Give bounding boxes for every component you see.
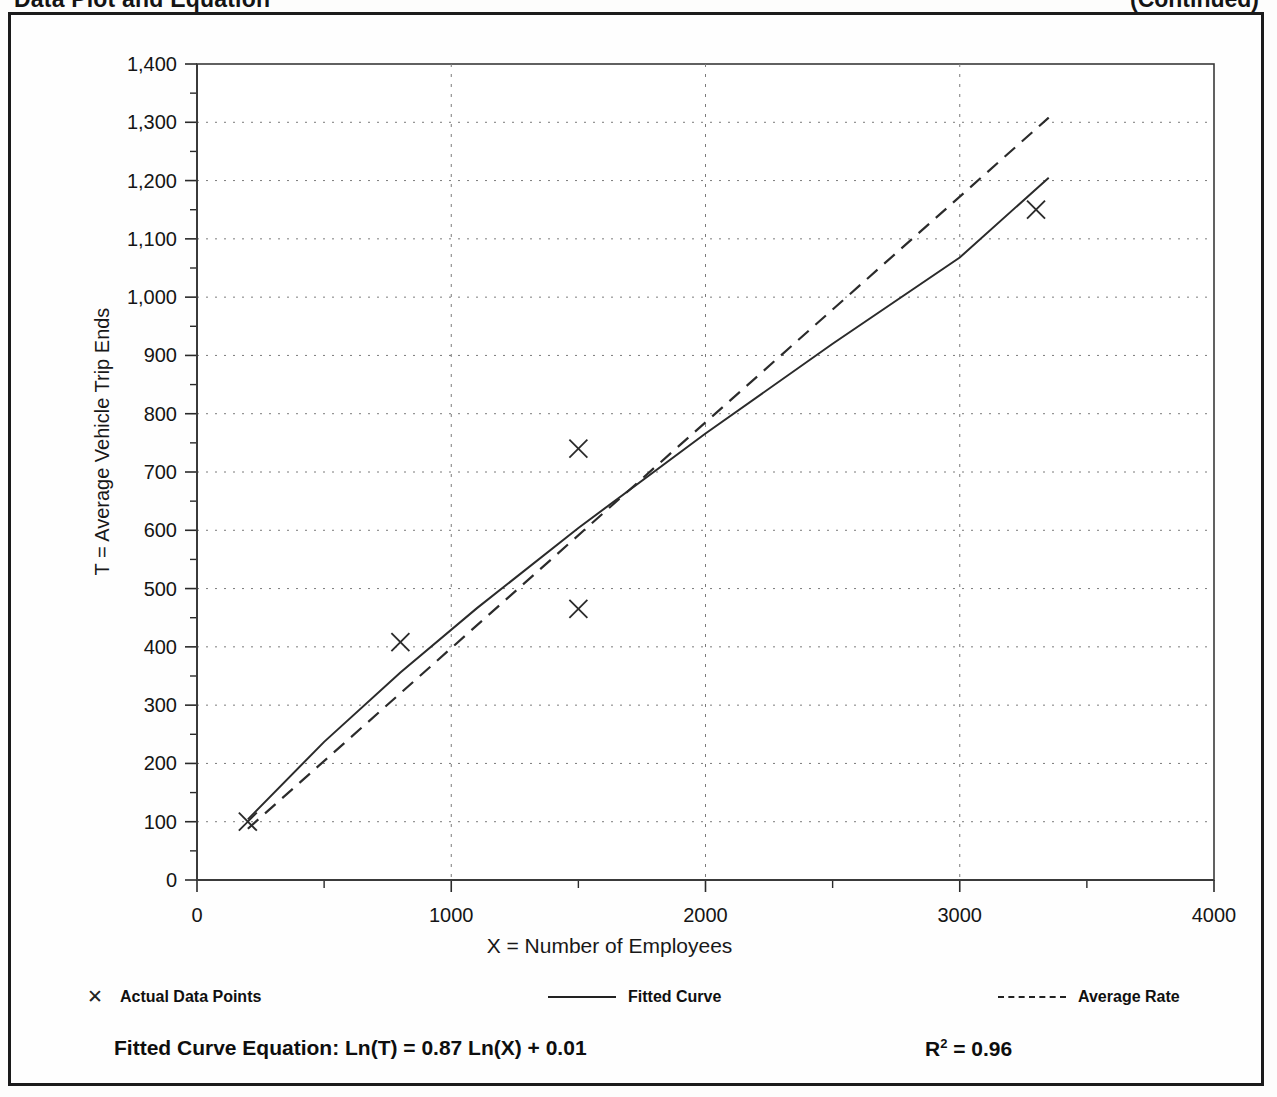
x-axis-label-wrap: X = Number of Employees [0, 934, 1277, 958]
r-squared-symbol: R [925, 1037, 940, 1060]
figure-page: Data Plot and Equation (Continued) 01002… [0, 0, 1277, 1097]
legend-label: Actual Data Points [120, 988, 261, 1006]
legend-label: Fitted Curve [628, 988, 721, 1006]
chart-legend: ✕ Actual Data Points Fitted Curve Averag… [70, 988, 1210, 1018]
equation-row: Fitted Curve Equation: Ln(T) = 0.87 Ln(X… [70, 1036, 1220, 1070]
solid-line-icon [548, 988, 616, 1006]
legend-label: Average Rate [1078, 988, 1180, 1006]
r-squared-number: = 0.96 [953, 1037, 1012, 1060]
dashed-line-icon [998, 988, 1066, 1006]
y-axis-label: T = Average Vehicle Trip Ends [91, 292, 114, 592]
legend-item-average-rate: Average Rate [998, 988, 1180, 1006]
legend-item-actual-data-points: ✕ Actual Data Points [82, 988, 261, 1006]
r-squared-exponent: 2 [940, 1036, 947, 1051]
fitted-curve-equation: Fitted Curve Equation: Ln(T) = 0.87 Ln(X… [114, 1036, 587, 1060]
legend-item-fitted-curve: Fitted Curve [548, 988, 721, 1006]
r-squared-value: R2 = 0.96 [925, 1036, 1012, 1061]
x-axis-label: X = Number of Employees [487, 934, 733, 958]
figure-border [8, 12, 1264, 1086]
x-marker-icon: ✕ [82, 988, 108, 1006]
